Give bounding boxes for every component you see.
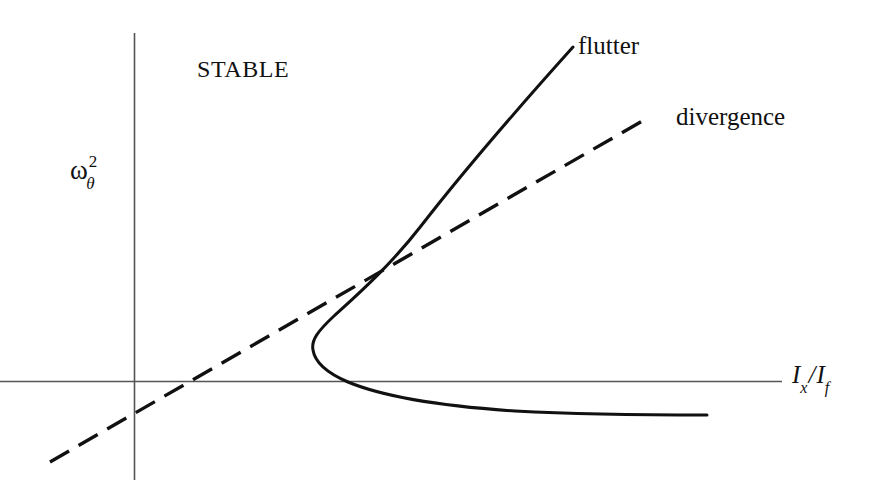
flutter-curve (313, 47, 707, 415)
divergence-curve-label: divergence (676, 104, 785, 129)
stable-region-label: STABLE (197, 57, 289, 81)
x-axis-label-numerator-subscript: x (800, 379, 807, 396)
y-axis-label-subscript: θ (86, 174, 94, 193)
y-axis-label-superscript: 2 (89, 152, 98, 171)
x-axis-label: Ix/If (792, 362, 829, 392)
divergence-curve (50, 120, 644, 462)
stability-diagram-figure: STABLE flutter divergence ω2θ Ix/If (0, 0, 881, 495)
plot-canvas (0, 0, 881, 495)
x-axis-label-denominator-subscript: f (825, 379, 829, 396)
y-axis-label: ω2θ (70, 155, 105, 188)
flutter-curve-label: flutter (578, 33, 639, 58)
x-axis-label-denominator-symbol: I (816, 361, 824, 388)
